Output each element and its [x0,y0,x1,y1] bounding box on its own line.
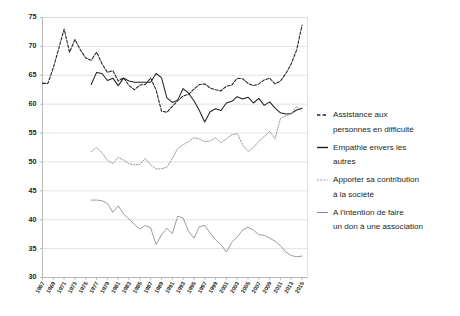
y-tick-label: 30 [29,272,37,281]
line-chart: 30354045505560657075 1967196919711973197… [0,0,460,316]
legend-label-line1: Assistance aux [333,110,387,119]
y-tick-label: 50 [29,157,37,166]
y-tick-label: 65 [29,70,37,79]
y-tick-label: 55 [29,128,37,137]
chart-background [0,0,460,316]
y-tick-label: 70 [29,41,37,50]
legend-label-line2: autres [333,157,356,166]
y-tick-label: 45 [29,186,37,195]
chart-figure: 30354045505560657075 1967196919711973197… [0,0,460,316]
y-tick-label: 60 [29,99,37,108]
y-tick-label: 40 [29,215,37,224]
y-tick-label: 75 [29,12,37,21]
legend-label-line1: Apporter sa contribution [333,175,419,184]
legend-label-line1: A l’intention de faire [333,208,404,217]
legend-label-line2: personnes en difficulté [333,125,414,134]
y-tick-label: 35 [29,244,37,253]
legend-label-line2: un don à une association [333,222,423,231]
legend-label-line1: Empathie envers les [333,143,406,152]
legend-label-line2: à la société [333,190,374,199]
